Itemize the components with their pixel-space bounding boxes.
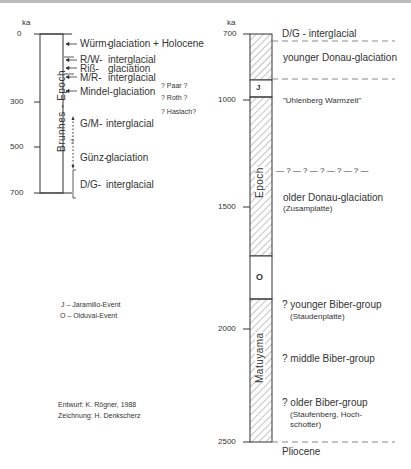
tick-label: 500 [10, 143, 23, 151]
epoch-column-upper-hatch [250, 34, 272, 80]
stage-name: glaciation + Holocene [108, 39, 204, 49]
uhlenberg-warmzeit: "Uhlenberg Warmzeit" [283, 97, 361, 105]
legend-jaramillo: J – Jaramillo-Event [61, 301, 121, 308]
credit-drawing: Zeichnung: H. Denkscherz [58, 412, 140, 419]
uncertain-boundary: — ? — ? — ? — ? — ? — [276, 167, 368, 175]
unit-label-left: ka [22, 19, 30, 27]
younger-biber-group: ? younger Biber-group [282, 300, 382, 310]
tick-label: 2000 [218, 325, 236, 333]
stage-code: Mindel- [80, 87, 113, 97]
stage-name: glaciation [113, 87, 155, 97]
matuyama-label: Matuyama [255, 332, 265, 383]
tick-label: 700 [223, 30, 236, 38]
dg-bracket [73, 170, 76, 198]
tick-label: 700 [10, 189, 23, 197]
stage-name: interglacial [108, 73, 156, 83]
older-biber-sub: schotter) [290, 421, 321, 429]
stage-name: glaciation [106, 153, 148, 163]
unit-label-right: ka [227, 19, 235, 27]
tick-label: 1000 [218, 96, 236, 104]
tick-label: 2500 [218, 438, 236, 446]
older-donau-glaciation: older Donau-glaciation [283, 193, 383, 203]
uncertain-stage: ? Paar ? [161, 82, 187, 89]
uncertain-stage: ? Haslach? [161, 108, 196, 115]
olduvai-marker: O [256, 273, 263, 282]
dg-interglacial: D/G - interglacial [282, 29, 356, 39]
epoch-label: Epoch [255, 167, 265, 198]
credit-design: Entwurf: K. Rögner, 1988 [58, 401, 136, 408]
legend-olduvai: O – Olduvai-Event [60, 312, 117, 319]
uncertain-stage: ? Roth ? [161, 94, 187, 101]
tick-label: 1500 [218, 203, 236, 211]
younger-donau-glaciation: younger Donau-glaciation [283, 53, 397, 63]
older-biber-group: ? older Biber-group [282, 398, 368, 408]
older-donau-sub: (Zusamplatte) [283, 205, 332, 213]
stage-code: M/R- [80, 73, 102, 83]
jaramillo-band [250, 80, 272, 97]
jaramillo-marker: J [256, 84, 260, 92]
middle-biber-group: ? middle Biber-group [282, 354, 375, 364]
older-biber-sub: (Staufenberg, Hoch- [290, 411, 362, 419]
younger-biber-sub: (Staudenplatte) [290, 313, 345, 321]
tick-label: 300 [10, 98, 23, 106]
stage-code: Würm- [80, 39, 110, 49]
stage-name: interglacial [106, 180, 154, 190]
stage-code: D/G- [80, 180, 101, 190]
pliocene-label: Pliocene [282, 447, 320, 457]
brunhes-epoch-label: Brunhes - Epoch [57, 70, 67, 152]
tick-label: 0 [17, 30, 21, 38]
uncertain-mark: ? [70, 138, 74, 145]
stage-code: Günz- [80, 153, 107, 163]
stage-name: interglacial [106, 119, 154, 129]
stage-code: G/M- [80, 119, 102, 129]
